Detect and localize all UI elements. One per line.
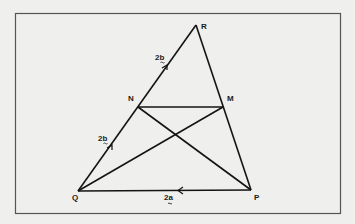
tilde-mark: [104, 143, 108, 144]
svg-text:2a: 2a: [164, 193, 173, 202]
svg-text:2b: 2b: [98, 134, 107, 143]
vertex-label-N: N: [128, 94, 134, 103]
diagram-frame: [16, 14, 341, 214]
segment-QP: [78, 190, 251, 191]
svg-text:2b: 2b: [155, 53, 164, 62]
vector-label-NR: 2b: [155, 53, 165, 63]
segment-QM: [78, 107, 223, 191]
tilde-mark: [168, 203, 172, 204]
vertex-label-R: R: [201, 22, 207, 31]
tilde-mark: [161, 62, 165, 63]
triangle-vector-diagram: R N M Q P 2b 2b 2a: [0, 0, 355, 224]
segment-NP: [138, 107, 251, 190]
vector-label-PQ: 2a: [164, 193, 173, 204]
segment-QR: [78, 25, 196, 191]
vertex-label-P: P: [254, 193, 260, 202]
vertex-label-Q: Q: [72, 193, 78, 202]
vertex-label-M: M: [227, 94, 234, 103]
vector-label-QN: 2b: [98, 134, 108, 144]
